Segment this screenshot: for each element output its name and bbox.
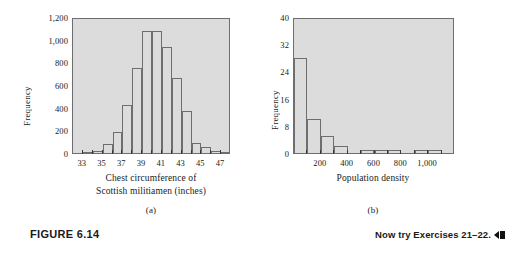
chart-panel-b: Frequency 0816243240 2004006008001,000 P… <box>256 0 511 215</box>
x-tick-mark <box>306 150 307 154</box>
x-tick-mark <box>92 150 93 154</box>
x-tick-mark <box>210 150 211 154</box>
histogram-bar <box>172 78 182 153</box>
y-tick-label: 1,200 <box>8 13 68 23</box>
x-tick-mark <box>102 150 103 154</box>
chart-a-bars <box>73 19 229 153</box>
x-tick-label: 37 <box>117 158 126 168</box>
now-try-label: Now try Exercises 21–22. <box>375 229 491 240</box>
x-tick-mark <box>347 150 348 154</box>
x-tick-mark <box>131 150 132 154</box>
x-tick-label: 33 <box>78 158 87 168</box>
histogram-bar <box>307 119 320 153</box>
x-tick-mark <box>191 150 192 154</box>
x-tick-mark <box>171 150 172 154</box>
rewind-block-icon <box>500 231 505 239</box>
y-tick-label: 800 <box>8 58 68 68</box>
chart-b-x-axis-title: Population density <box>278 172 468 185</box>
histogram-bar <box>388 150 401 153</box>
x-tick-mark <box>82 150 83 154</box>
x-tick-mark <box>320 150 321 154</box>
chart-b-plot-area <box>293 18 454 154</box>
x-tick-label: 45 <box>196 158 205 168</box>
x-tick-mark <box>200 150 201 154</box>
y-tick-label: 600 <box>8 81 68 91</box>
y-tick-label: 0 <box>8 149 68 159</box>
figure-container: Frequency 02004006008001,0001,200 333537… <box>0 0 511 260</box>
now-try-exercises: Now try Exercises 21–22. <box>375 229 505 240</box>
chart-b-y-axis-title: Frequency <box>270 48 280 130</box>
x-tick-mark <box>121 150 122 154</box>
x-tick-mark <box>220 150 221 154</box>
x-tick-mark <box>441 150 442 154</box>
x-tick-mark <box>151 150 152 154</box>
histogram-bar <box>375 150 388 153</box>
x-tick-mark <box>414 150 415 154</box>
histogram-bar <box>334 146 347 153</box>
y-tick-label: 1,000 <box>8 36 68 46</box>
x-tick-label: 200 <box>313 158 326 168</box>
histogram-bar <box>132 68 142 153</box>
y-tick-label: 24 <box>229 67 289 77</box>
y-tick-label: 400 <box>8 104 68 114</box>
x-tick-mark <box>333 150 334 154</box>
y-tick-label: 8 <box>229 122 289 132</box>
x-tick-mark <box>161 150 162 154</box>
histogram-bar <box>162 47 172 153</box>
x-tick-label: 1,000 <box>417 158 437 168</box>
histogram-bar <box>142 31 152 153</box>
histogram-bar <box>321 136 334 153</box>
x-tick-label: 39 <box>137 158 146 168</box>
x-tick-mark <box>141 150 142 154</box>
subcaption-a: (a) <box>56 205 246 215</box>
y-tick-label: 40 <box>229 13 289 23</box>
chart-panel-a: Frequency 02004006008001,0001,200 333537… <box>0 0 255 215</box>
histogram-bar <box>122 105 132 153</box>
chart-a-x-axis-title: Chest circumference of Scottish militiam… <box>56 172 246 197</box>
x-tick-mark <box>181 150 182 154</box>
x-tick-label: 600 <box>367 158 380 168</box>
histogram-bar <box>182 111 192 153</box>
y-tick-label: 0 <box>229 149 289 159</box>
x-tick-mark <box>427 150 428 154</box>
x-tick-mark <box>112 150 113 154</box>
chart-a-plot-area <box>72 18 230 154</box>
histogram-bar <box>152 31 162 153</box>
histogram-bar <box>415 150 428 153</box>
y-tick-label: 200 <box>8 126 68 136</box>
x-tick-label: 800 <box>394 158 407 168</box>
x-tick-label: 35 <box>97 158 106 168</box>
x-tick-mark <box>400 150 401 154</box>
x-tick-mark <box>387 150 388 154</box>
subcaption-b: (b) <box>278 205 468 215</box>
x-tick-label: 41 <box>157 158 166 168</box>
histogram-bar <box>294 58 307 153</box>
rewind-arrow-icon <box>494 231 499 239</box>
x-tick-label: 47 <box>216 158 225 168</box>
x-tick-mark <box>374 150 375 154</box>
histogram-bar <box>428 150 441 153</box>
x-tick-label: 400 <box>340 158 353 168</box>
y-tick-label: 32 <box>229 40 289 50</box>
y-tick-label: 16 <box>229 95 289 105</box>
x-tick-label: 43 <box>176 158 185 168</box>
chart-b-bars <box>294 19 453 153</box>
histogram-bar <box>361 150 374 153</box>
x-tick-mark <box>360 150 361 154</box>
figure-label: FIGURE 6.14 <box>30 228 99 240</box>
